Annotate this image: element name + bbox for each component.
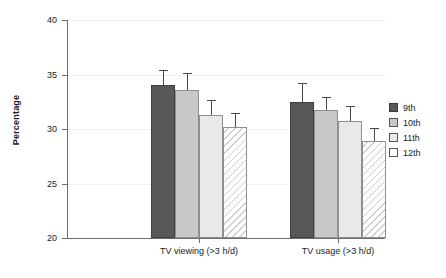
error-bar [290, 83, 314, 102]
legend-item: 11th [389, 130, 445, 145]
error-bar-cap [183, 73, 192, 74]
bar [314, 110, 338, 238]
error-bar [199, 100, 223, 115]
x-axis-group-label: TV usage (>3 h/d) [302, 246, 374, 256]
y-axis-title-text: Percentage [11, 95, 21, 146]
bar [362, 141, 386, 238]
gridline [68, 75, 385, 76]
bar [223, 127, 247, 238]
error-bar [314, 97, 338, 110]
error-bar-stem [374, 128, 375, 141]
error-bar-cap [231, 113, 240, 114]
legend-swatch-icon [389, 133, 398, 142]
error-bar-stem [302, 83, 303, 102]
y-axis-tick-label: 40 [35, 15, 57, 25]
error-bar-cap [298, 83, 307, 84]
y-axis-tick-label: 30 [35, 124, 57, 134]
error-bar-stem [326, 97, 327, 110]
error-bar-stem [163, 70, 164, 85]
error-bar-cap [346, 106, 355, 107]
error-bar [338, 106, 362, 121]
x-axis-tick [338, 238, 339, 243]
y-axis-tick [62, 75, 67, 76]
legend: 9th10th11th12th [389, 100, 445, 160]
error-bar-cap [159, 70, 168, 71]
bar [338, 121, 362, 238]
y-axis-tick-label: 35 [35, 70, 57, 80]
error-bar-stem [235, 113, 236, 127]
legend-swatch-icon [389, 118, 398, 127]
y-axis-tick [62, 238, 67, 239]
legend-item: 12th [389, 145, 445, 160]
legend-item: 9th [389, 100, 445, 115]
legend-swatch-icon [389, 148, 398, 157]
error-bar [151, 70, 175, 85]
legend-item-label: 12th [403, 148, 421, 158]
error-bar [175, 73, 199, 89]
legend-swatch-icon [389, 103, 398, 112]
error-bar [223, 113, 247, 127]
legend-item-label: 9th [403, 103, 416, 113]
plot-area: 2025303540 TV viewing (>3 h/d)TV usage (… [67, 20, 385, 238]
legend-item: 10th [389, 115, 445, 130]
bar-chart: Percentage 2025303540 TV viewing (>3 h/d… [0, 0, 446, 278]
error-bar-cap [207, 100, 216, 101]
error-bar-stem [350, 106, 351, 121]
error-bar-stem [211, 100, 212, 115]
error-bar-cap [370, 128, 379, 129]
error-bar-cap [322, 97, 331, 98]
gridline [68, 20, 385, 21]
error-bar-stem [187, 73, 188, 89]
error-bar [362, 128, 386, 141]
bar [175, 90, 199, 238]
x-axis-tick [199, 238, 200, 243]
y-axis-tick-label: 25 [35, 179, 57, 189]
y-axis-title: Percentage [4, 0, 28, 240]
y-axis-tick [62, 184, 67, 185]
x-axis-group-label: TV viewing (>3 h/d) [160, 246, 238, 256]
bar [151, 85, 175, 238]
y-axis-tick [62, 129, 67, 130]
bar [290, 102, 314, 238]
y-axis-tick-label: 20 [35, 233, 57, 243]
bar [199, 115, 223, 238]
y-axis-tick [62, 20, 67, 21]
legend-item-label: 11th [403, 133, 420, 143]
legend-item-label: 10th [403, 118, 421, 128]
